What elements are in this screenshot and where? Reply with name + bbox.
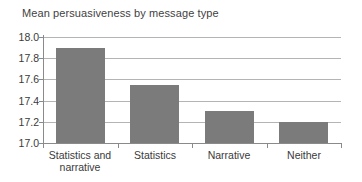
bar-3 [205,111,254,143]
chart-title: Mean persuasiveness by message type [22,7,219,19]
gridline [43,37,341,38]
y-tick-label: 17.0 [6,137,39,149]
y-tick-label: 17.6 [6,73,39,85]
x-axis-tick [192,143,193,148]
x-axis-tick [43,143,44,148]
bar-4 [279,122,328,143]
y-tick-label: 18.0 [6,31,39,43]
x-category-label: Neither [259,149,349,161]
x-axis-tick [118,143,119,148]
bar-1 [56,48,105,143]
x-axis-tick [267,143,268,148]
y-tick-label: 17.2 [6,116,39,128]
y-axis-line [43,35,44,144]
y-tick-label: 17.4 [6,95,39,107]
bar-chart: Mean persuasiveness by message type 17.0… [0,0,362,182]
y-tick-label: 17.8 [6,52,39,64]
x-axis-tick [341,143,342,148]
bar-2 [130,85,179,143]
